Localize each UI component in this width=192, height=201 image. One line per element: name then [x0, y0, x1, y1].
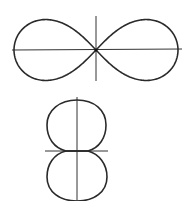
diagram-canvas — [0, 0, 192, 201]
origin-point — [94, 48, 97, 51]
vertical-eight-figure — [45, 97, 108, 201]
lemniscate-figure — [12, 16, 182, 81]
